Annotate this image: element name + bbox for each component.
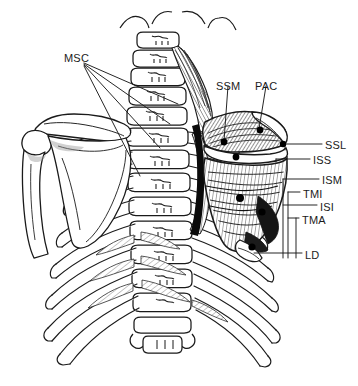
- iss-point: [233, 154, 240, 161]
- ld-point: [248, 243, 255, 250]
- label-isi: ISI: [320, 202, 334, 213]
- label-ld: LD: [305, 250, 319, 261]
- isi-point: [236, 194, 244, 202]
- anatomy-figure: MSCSSMPACSSLISSISMTMIISITMALD: [0, 0, 358, 386]
- label-tma: TMA: [302, 215, 326, 226]
- pac-point: [257, 127, 264, 134]
- label-ism: ISM: [322, 175, 342, 186]
- label-iss: ISS: [313, 155, 331, 166]
- ssm-point: [221, 139, 228, 146]
- label-tmi: TMI: [303, 189, 323, 200]
- tma-point: [258, 208, 265, 215]
- label-pac: PAC: [255, 81, 277, 92]
- ssl-point: [280, 141, 286, 147]
- label-msc: MSC: [64, 53, 89, 64]
- label-ssl: SSL: [325, 140, 346, 151]
- label-ssm: SSM: [216, 81, 240, 92]
